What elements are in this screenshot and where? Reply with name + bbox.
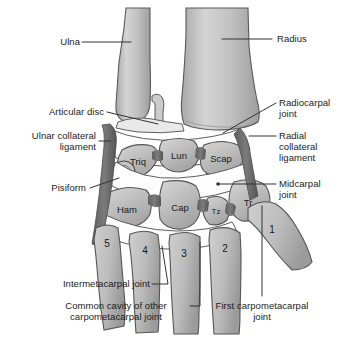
metacarpal-number-1: 1 — [269, 224, 275, 235]
anatomy-illustration — [0, 0, 350, 345]
label-articular-disc: Articular disc — [2, 106, 104, 117]
bone-label-trapezoid: Tz — [212, 207, 221, 216]
wrist-anatomy-figure: Ulna Articular disc Ulnar collateral lig… — [0, 0, 350, 345]
bone-label-scaphoid: Scap — [210, 153, 232, 164]
bone-label-triquetral: Triq — [130, 156, 146, 167]
metacarpal-number-5: 5 — [104, 238, 110, 249]
label-common-cavity: Common cavity of other carpometacarpal j… — [44, 300, 188, 322]
bone-label-hamate: Ham — [117, 204, 137, 215]
bone-label-lunate: Lun — [171, 150, 187, 161]
label-pisiform: Pisiform — [14, 182, 86, 193]
label-radial-collateral-ligament: Radial collateral ligament — [279, 130, 347, 163]
label-ulna: Ulna — [10, 36, 80, 47]
label-radius: Radius — [277, 33, 347, 44]
articular-disc — [116, 118, 184, 133]
label-radiocarpal-joint: Radiocarpal joint — [279, 97, 347, 119]
radius-bone — [181, 8, 259, 130]
metacarpal-1 — [248, 202, 312, 270]
label-intermetacarpal-joint: Intermetacarpal joint — [8, 278, 150, 289]
bone-label-capitate: Cap — [171, 202, 188, 213]
metacarpal-number-3: 3 — [181, 248, 187, 259]
label-ulnar-collateral-ligament: Ulnar collateral ligament — [2, 130, 96, 152]
metacarpal-number-2: 2 — [222, 243, 228, 254]
metacarpal-number-4: 4 — [142, 245, 148, 256]
ulnar-styloid-process — [152, 94, 164, 122]
label-midcarpal-joint: Midcarpal joint — [279, 178, 347, 200]
label-first-carpometacarpal-joint: First carpometacarpal joint — [203, 300, 321, 322]
ulna-bone — [116, 8, 151, 122]
bone-label-trapezium: Tr — [244, 197, 253, 208]
